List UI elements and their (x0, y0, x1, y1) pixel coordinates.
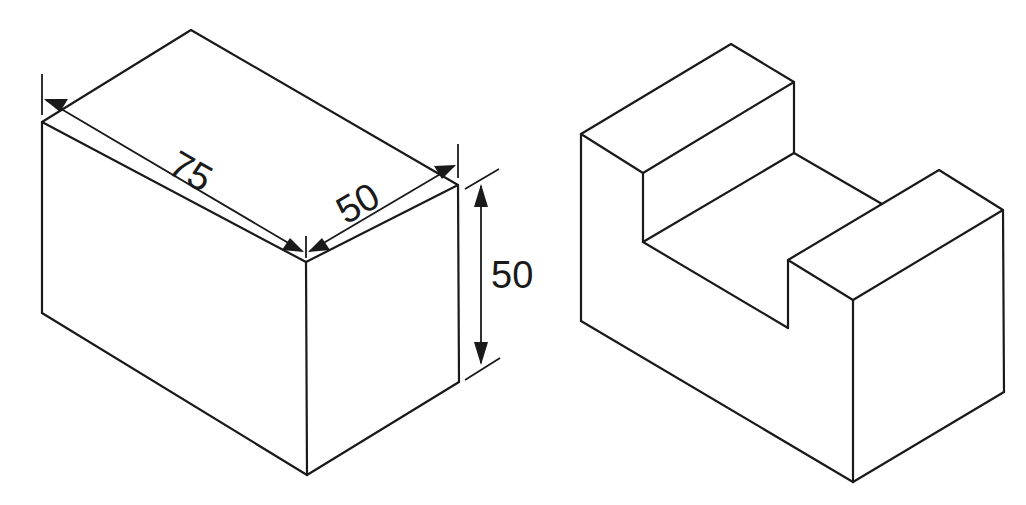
left-riser-top-face (581, 44, 794, 173)
arrowhead-height-bottom (474, 342, 488, 365)
extension-line-height-top (465, 169, 499, 189)
bottom-left-edge (581, 321, 853, 482)
u-channel-block (581, 44, 1004, 482)
block-top-face (42, 30, 458, 262)
right-outer-vertical-edge (1003, 210, 1004, 392)
right-riser-top-face (788, 170, 1003, 300)
channel-floor-back-edge (643, 153, 794, 242)
dimension-label-height: 50 (491, 254, 533, 296)
arrowhead-height-top (474, 184, 488, 207)
dimension-label-width: 50 (329, 174, 387, 232)
arrowhead-length-end (282, 238, 304, 252)
extension-line-height-bottom (465, 358, 500, 380)
isometric-drawing-canvas: 75 50 50 (0, 0, 1026, 505)
block-bottom-right-edge (307, 382, 459, 475)
block-front-vertical-edge (306, 262, 307, 475)
channel-floor-front-edge (643, 242, 788, 328)
bottom-right-edge (853, 392, 1004, 482)
rectangular-block (42, 30, 459, 475)
block-bottom-left-edge (42, 313, 307, 475)
channel-floor-far-edge (794, 153, 882, 204)
block-right-vertical-edge (458, 185, 459, 382)
